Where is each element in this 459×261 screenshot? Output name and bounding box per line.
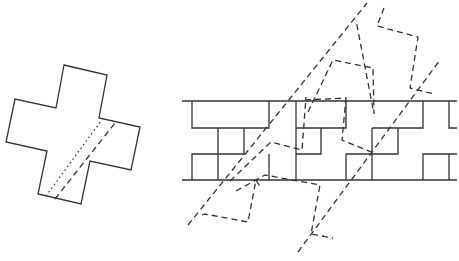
cross-dotted-cut <box>46 121 101 196</box>
diagram-canvas <box>0 0 459 261</box>
cross-tiling-band <box>182 101 457 180</box>
rotated-cross <box>6 65 140 204</box>
